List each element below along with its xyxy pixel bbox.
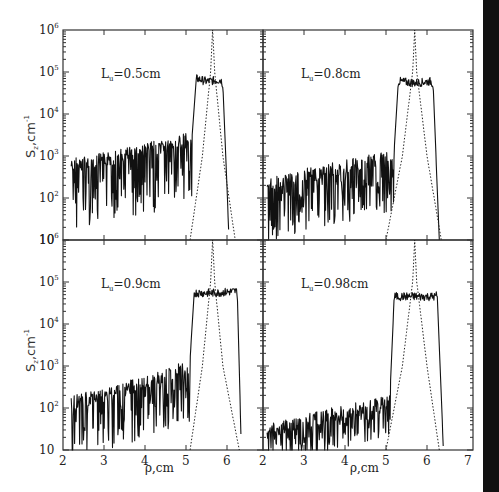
resonance-dotted-curve bbox=[386, 30, 441, 240]
x-tick-label: 2 bbox=[259, 454, 267, 468]
x-tick-label: 3 bbox=[100, 454, 108, 468]
panel-frame bbox=[63, 30, 263, 240]
panel-annotation: Lu=0.9cm bbox=[101, 277, 161, 293]
resonance-dotted-curve bbox=[190, 240, 239, 450]
y-axis-label-bottom: Sz,cm-1 bbox=[23, 329, 40, 372]
panel-top-left: 10610510410310210Lu=0.5cm bbox=[39, 22, 263, 247]
y-tick-label: 10 bbox=[39, 443, 54, 457]
x-tick-label: 7 bbox=[464, 454, 472, 468]
sz-curve bbox=[71, 75, 228, 230]
y-tick-label: 104 bbox=[39, 106, 59, 121]
x-tick-label: 5 bbox=[382, 454, 390, 468]
scan-edge-bar bbox=[483, 0, 499, 492]
resonance-dotted-curve bbox=[190, 30, 235, 240]
x-axis-label-left: ρ,cm bbox=[145, 461, 175, 475]
panel-annotation: Lu=0.98cm bbox=[301, 277, 369, 293]
panel-bottom-left: 1061051041031021023456Lu=0.9cm bbox=[39, 232, 263, 468]
x-tick-label: 2 bbox=[59, 454, 67, 468]
y-tick-label: 106 bbox=[39, 22, 59, 37]
y-tick-label: 105 bbox=[39, 274, 59, 289]
y-tick-label: 105 bbox=[39, 64, 59, 79]
x-axis-label-right: ρ,cm bbox=[350, 461, 380, 475]
sz-curve bbox=[71, 288, 241, 450]
x-tick-label: 5 bbox=[182, 454, 190, 468]
panel-frame bbox=[263, 240, 473, 450]
x-tick-label: 4 bbox=[341, 454, 349, 468]
panel-annotation: Lu=0.8cm bbox=[301, 67, 361, 83]
panel-annotation: Lu=0.5cm bbox=[101, 67, 161, 83]
x-tick-label: 3 bbox=[300, 454, 308, 468]
sz-curve bbox=[267, 77, 439, 240]
panel-bottom-right: 234567Lu=0.98cm bbox=[259, 240, 473, 468]
y-tick-label: 102 bbox=[39, 400, 59, 415]
sz-curve bbox=[267, 292, 443, 450]
y-axis-label-top: Sz,cm-1 bbox=[23, 115, 40, 158]
y-tick-label: 103 bbox=[39, 148, 59, 163]
panel-top-right: Lu=0.8cm bbox=[263, 30, 473, 240]
resonance-dotted-curve bbox=[386, 240, 439, 450]
y-tick-label: 106 bbox=[39, 232, 59, 247]
panels-group: 10610510410310210Lu=0.5cmLu=0.8cm1061051… bbox=[39, 22, 473, 468]
figure: 10610510410310210Lu=0.5cmLu=0.8cm1061051… bbox=[0, 0, 499, 492]
y-tick-label: 104 bbox=[39, 316, 59, 331]
y-tick-label: 102 bbox=[39, 190, 59, 205]
x-tick-label: 6 bbox=[223, 454, 231, 468]
y-tick-label: 103 bbox=[39, 358, 59, 373]
x-tick-label: 6 bbox=[423, 454, 431, 468]
